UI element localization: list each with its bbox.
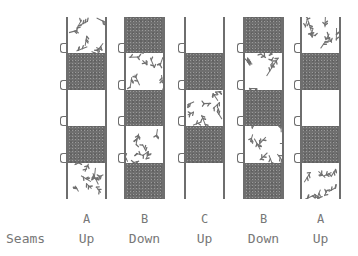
seam-tab-icon: [294, 43, 300, 53]
seam-tab-icon: [118, 43, 124, 53]
strip-5: [300, 17, 341, 199]
floral-block: [186, 90, 223, 126]
dark-block: [302, 126, 339, 162]
seam-tab-icon: [60, 43, 66, 53]
seam-tab-icon: [178, 43, 184, 53]
dark-block: [245, 17, 282, 53]
dark-block: [126, 90, 163, 126]
seam-orientation-label: Down: [233, 232, 294, 245]
floral-block: [68, 17, 105, 53]
white-block: [186, 17, 223, 53]
white-block: [302, 90, 339, 126]
seam-tab-icon: [60, 80, 66, 90]
strip-letter-label: A: [66, 213, 107, 225]
seam-tab-icon: [178, 153, 184, 163]
seam-tab-icon: [294, 80, 300, 90]
dark-block: [68, 126, 105, 162]
seam-tab-icon: [178, 116, 184, 126]
white-block: [186, 163, 223, 199]
dark-block: [126, 17, 163, 53]
floral-block: [302, 163, 339, 199]
seam-tab-icon: [60, 153, 66, 163]
dark-block: [186, 53, 223, 89]
seam-tab-icon: [237, 43, 243, 53]
seam-tab-icon: [118, 80, 124, 90]
seam-tab-icon: [60, 116, 66, 126]
dark-block: [302, 53, 339, 89]
seam-tab-icon: [118, 153, 124, 163]
strip-1: [66, 17, 107, 199]
dark-block: [245, 163, 282, 199]
strip-letter-label: B: [124, 213, 165, 225]
seam-tab-icon: [294, 153, 300, 163]
white-block: [68, 90, 105, 126]
seam-tab-icon: [237, 116, 243, 126]
strip-4: [243, 17, 284, 199]
dark-block: [186, 126, 223, 162]
seam-orientation-label: Up: [174, 232, 235, 245]
strip-2: [124, 17, 165, 199]
seams-label: Seams: [6, 232, 45, 245]
seam-tab-icon: [118, 116, 124, 126]
seam-tab-icon: [237, 153, 243, 163]
strip-letter-label: B: [243, 213, 284, 225]
seam-tab-icon: [237, 80, 243, 90]
seam-orientation-label: Down: [114, 232, 175, 245]
dark-block: [245, 90, 282, 126]
floral-block: [245, 53, 282, 89]
floral-block: [245, 126, 282, 162]
seam-orientation-label: Up: [56, 232, 117, 245]
floral-block: [68, 163, 105, 199]
floral-block: [126, 126, 163, 162]
seam-tab-icon: [294, 116, 300, 126]
strip-letter-label: A: [300, 213, 341, 225]
strip-3: [184, 17, 225, 199]
seam-tab-icon: [178, 80, 184, 90]
floral-block: [126, 53, 163, 89]
dark-block: [68, 53, 105, 89]
floral-block: [302, 17, 339, 53]
dark-block: [126, 163, 163, 199]
seam-orientation-label: Up: [290, 232, 351, 245]
strip-letter-label: C: [184, 213, 225, 225]
